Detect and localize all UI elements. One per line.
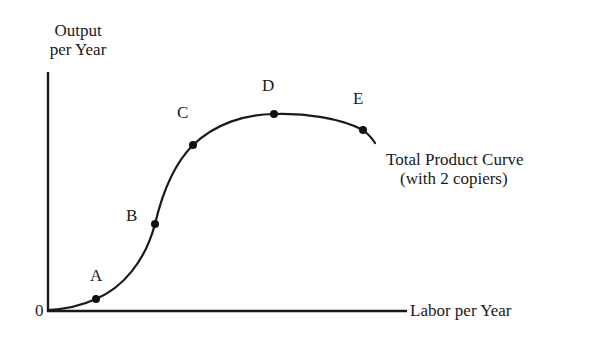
point-e-marker <box>359 126 367 134</box>
point-b-label: B <box>126 206 137 226</box>
y-axis-label: Output per Year <box>33 21 123 59</box>
curve-label: Total Product Curve (with 2 copiers) <box>386 150 524 188</box>
point-c-label: C <box>177 103 188 123</box>
point-d-label: D <box>262 76 274 96</box>
total-product-diagram: Output per Year Labor per Year 0 Total P… <box>0 0 607 343</box>
x-axis-label: Labor per Year <box>410 301 512 320</box>
point-c-marker <box>189 141 197 149</box>
y-axis-label-line1: Output <box>33 21 123 40</box>
curve-label-line1: Total Product Curve <box>386 150 524 169</box>
point-e-label: E <box>353 89 363 109</box>
point-a-marker <box>92 295 100 303</box>
point-d-marker <box>270 110 278 118</box>
point-b-marker <box>151 220 159 228</box>
origin-label: 0 <box>35 301 44 320</box>
point-a-label: A <box>90 266 102 286</box>
y-axis-label-line2: per Year <box>33 40 123 59</box>
curve-label-line2: (with 2 copiers) <box>386 169 524 188</box>
